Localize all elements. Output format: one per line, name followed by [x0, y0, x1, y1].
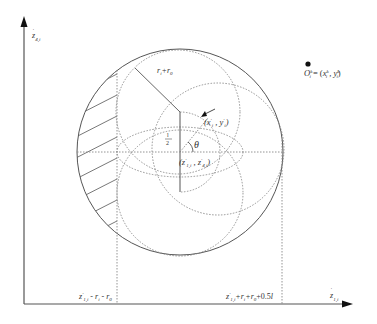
radius-label: ri+r0 — [157, 66, 173, 76]
x-axis — [24, 301, 353, 308]
center-label: (z'1,i , z'4,i) — [179, 157, 210, 169]
x-axis-label-sup: ' — [331, 287, 332, 292]
angle-arc — [188, 142, 193, 152]
candidate-circles — [116, 50, 284, 256]
destination-label: Oki = (xki , yki) — [304, 68, 341, 79]
half-label-num: l — [167, 132, 169, 138]
point-label: (x'i , y'i) — [204, 117, 229, 128]
y-axis — [21, 16, 28, 304]
x-tick-right-label: z'1,i+ri+r0+0.5l — [225, 292, 274, 303]
diagram-canvas: z4,i ' z1,i ' ri+r0 (x'i , y'i) l 2 θ (z… — [0, 0, 377, 324]
right-circle — [152, 83, 284, 215]
x-axis-label: z1,i — [329, 291, 339, 303]
upper-circle — [116, 50, 240, 174]
y-axis-arrow-icon — [21, 16, 28, 27]
destination-dot — [305, 61, 310, 66]
angle-label: θ — [194, 139, 199, 150]
x-tick-left-label: z'1,i - ri - r0 — [78, 292, 112, 303]
x-axis-arrow-icon — [342, 301, 353, 308]
y-axis-label-sup: ' — [33, 28, 34, 33]
half-label-den: 2 — [166, 140, 169, 146]
